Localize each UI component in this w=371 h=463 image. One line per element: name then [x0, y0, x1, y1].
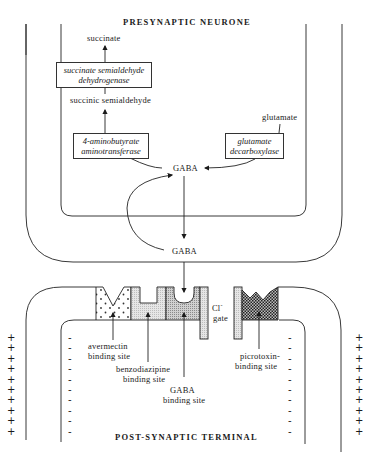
plus-sign: + [7, 416, 15, 426]
gaba-intracellular-label: GABA [173, 163, 198, 173]
minus-sign: - [288, 416, 292, 426]
chloride-gate-right [234, 287, 242, 339]
plus-sign: + [355, 343, 363, 353]
minus-sign: - [288, 427, 292, 437]
postsynaptic-inner-membrane [61, 320, 305, 444]
avermectin-site-label-2: binding site [88, 351, 130, 361]
succinic-semialdehyde-label: succinic semialdehyde [70, 95, 151, 105]
gaba-cleft-label: GABA [172, 246, 197, 256]
minus-sign: - [288, 395, 292, 405]
plus-sign: + [7, 364, 15, 374]
gaba-site-label-1: GABA [170, 385, 195, 395]
gate-label: gate [213, 313, 228, 323]
minus-sign: - [68, 364, 72, 374]
plus-sign: + [355, 427, 363, 437]
postsynaptic-title: POST-SYNAPTIC TERMINAL [115, 432, 258, 442]
gad-line2: decarboxylase [229, 146, 280, 156]
gaba-site-label-2: binding site [163, 395, 205, 405]
chloride-gate-left [200, 287, 208, 339]
succinate-label: succinate [87, 33, 120, 43]
ssadh-line1: succinate semialdehyde [60, 65, 148, 75]
plus-sign: + [355, 395, 363, 405]
benzodiazepine-site-label-1: benzodiazipine [116, 364, 170, 374]
picrotoxin-subunit [242, 287, 278, 320]
picrotoxin-site-label-1: picrotoxin- [240, 351, 280, 361]
minus-sign: - [68, 395, 72, 405]
picrotoxin-site-label-2: binding site [235, 361, 277, 371]
plus-sign: + [7, 427, 15, 437]
plus-sign: + [7, 343, 15, 353]
gabat-line1: 4-aminobutyrate [77, 136, 145, 146]
avermectin-site-label-1: avermectin [88, 341, 128, 351]
gaba-transaminase-box: 4-aminobutyrate aminotransferase [73, 133, 149, 159]
plus-sign: + [355, 364, 363, 374]
minus-sign: - [68, 416, 72, 426]
avermectin-subunit [96, 287, 131, 320]
benzodiazepine-subunit [131, 287, 166, 320]
gabat-line2: aminotransferase [77, 146, 145, 156]
chloride-label: Cl- [212, 300, 223, 313]
gaba-binding-subunit [166, 287, 200, 320]
minus-sign: - [288, 364, 292, 374]
glutamate-decarboxylase-box: glutamate decarboxylase [225, 133, 284, 159]
minus-sign: - [68, 427, 72, 437]
benzodiazepine-site-label-2: binding site [123, 374, 165, 384]
minus-sign: - [288, 343, 292, 353]
plus-sign: + [7, 395, 15, 405]
ssadh-enzyme-box: succinate semialdehyde dehydrogenase [56, 62, 152, 88]
gad-line1: glutamate [229, 136, 280, 146]
glutamate-label: glutamate [262, 112, 297, 122]
plus-sign: + [355, 416, 363, 426]
ssadh-line2: dehydrogenase [60, 75, 148, 85]
presynaptic-title: PRESYNAPTIC NEURONE [123, 17, 251, 27]
minus-sign: - [68, 343, 72, 353]
